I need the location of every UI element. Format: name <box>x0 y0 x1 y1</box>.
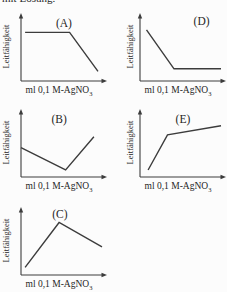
x-axis-label: ml 0,1 M-AgNO3 <box>9 181 109 191</box>
chart-c: Leitfähigkeit (C) ml 0,1 M-AgNO3 <box>0 199 113 292</box>
data-line <box>25 32 98 71</box>
chart-e: Leitfähigkeit (E) ml 0,1 M-AgNO3 <box>113 102 227 197</box>
x-axis-label-text: ml 0,1 M-AgNO <box>26 85 90 95</box>
x-axis-label: ml 0,1 M-AgNO3 <box>128 181 227 191</box>
x-axis-label-text: ml 0,1 M-AgNO <box>145 181 209 191</box>
chart-d: Leitfähigkeit (D) ml 0,1 M-AgNO3 <box>113 9 227 102</box>
x-axis-label-text: ml 0,1 M-AgNO <box>26 181 90 191</box>
x-axis-label-text: ml 0,1 M-AgNO <box>145 85 209 95</box>
chart-a: Leitfähigkeit (A) ml 0,1 M-AgNO3 <box>0 9 113 102</box>
exam-figure-page: mit Lösung. Leitfähigkeit (A) ml 0,1 M-A… <box>0 0 227 292</box>
x-axis-label-subscript: 3 <box>89 90 92 97</box>
clipped-question-text: mit Lösung. <box>2 0 162 5</box>
x-axis-label: ml 0,1 M-AgNO3 <box>9 279 109 289</box>
x-axis-label: ml 0,1 M-AgNO3 <box>128 85 227 95</box>
x-axis-label-text: ml 0,1 M-AgNO <box>26 279 90 289</box>
data-line <box>21 137 94 170</box>
plot-area-c: (C) <box>9 205 109 281</box>
x-axis-label: ml 0,1 M-AgNO3 <box>9 85 109 95</box>
chart-b: Leitfähigkeit (B) ml 0,1 M-AgNO3 <box>0 102 113 197</box>
chart-title: (E) <box>176 113 191 126</box>
plot-area-e: (E) <box>128 107 227 183</box>
chart-title: (D) <box>194 15 210 28</box>
data-line <box>148 126 221 170</box>
plot-area-b: (B) <box>9 107 109 183</box>
x-axis-label-subscript: 3 <box>208 90 211 97</box>
plot-area-a: (A) <box>9 11 109 87</box>
x-axis-label-subscript: 3 <box>89 284 92 291</box>
chart-title: (B) <box>51 113 67 126</box>
x-axis-label-subscript: 3 <box>208 186 211 193</box>
data-line <box>147 30 222 69</box>
data-line <box>25 223 102 268</box>
clipped-question-text-fragment: mit Lösung. <box>2 0 55 4</box>
plot-area-d: (D) <box>128 11 227 87</box>
chart-title: (A) <box>56 17 72 30</box>
chart-title: (C) <box>52 208 68 221</box>
x-axis-label-subscript: 3 <box>89 186 92 193</box>
